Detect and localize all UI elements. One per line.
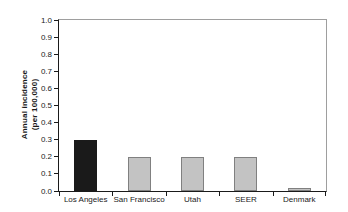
bar-utah xyxy=(181,157,204,191)
y-tick xyxy=(54,122,59,123)
y-tick-label: 0.0 xyxy=(27,187,52,196)
x-tick xyxy=(59,192,60,196)
x-tick xyxy=(166,192,167,196)
y-tick-label: 0.2 xyxy=(27,152,52,161)
y-tick xyxy=(54,105,59,106)
x-category-label: San Francisco xyxy=(112,195,165,204)
y-tick-label: 0.1 xyxy=(27,169,52,178)
y-tick-label: 1.0 xyxy=(27,16,52,25)
y-tick-label: 0.7 xyxy=(27,67,52,76)
x-category-label: Denmark xyxy=(273,195,326,204)
y-tick-label: 0.4 xyxy=(27,118,52,127)
y-tick-label: 0.3 xyxy=(27,135,52,144)
x-tick xyxy=(325,192,326,196)
y-tick xyxy=(54,71,59,72)
bar-los-angeles xyxy=(74,140,97,191)
y-tick-label: 0.5 xyxy=(27,101,52,110)
y-tick-label: 0.8 xyxy=(27,50,52,59)
y-tick-label: 0.9 xyxy=(27,33,52,42)
x-category-label: SEER xyxy=(219,195,272,204)
y-tick-label: 0.6 xyxy=(27,84,52,93)
bar-seer xyxy=(234,157,257,191)
y-tick xyxy=(54,54,59,55)
y-tick xyxy=(54,156,59,157)
x-category-label: Utah xyxy=(166,195,219,204)
y-tick xyxy=(54,20,59,21)
bar-chart-figure: Annual incidence (per 100,000) 0.00.10.2… xyxy=(0,0,348,212)
bar-san-francisco xyxy=(128,157,151,191)
x-tick xyxy=(112,192,113,196)
y-tick xyxy=(54,88,59,89)
bar-denmark xyxy=(288,188,311,191)
x-tick xyxy=(273,192,274,196)
x-tick xyxy=(219,192,220,196)
plot-area: 0.00.10.20.30.40.50.60.70.80.91.0 Los An… xyxy=(58,19,327,192)
x-category-label: Los Angeles xyxy=(59,195,112,204)
y-tick xyxy=(54,173,59,174)
y-tick xyxy=(54,37,59,38)
y-tick xyxy=(54,139,59,140)
